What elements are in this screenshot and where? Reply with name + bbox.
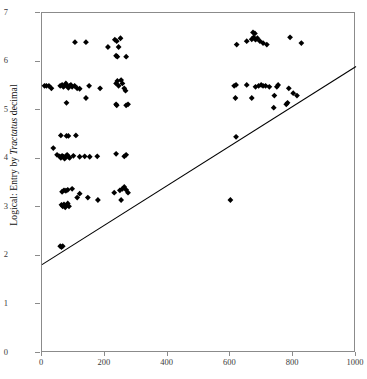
data-point bbox=[271, 93, 277, 99]
data-point bbox=[86, 83, 92, 89]
data-point bbox=[85, 195, 91, 201]
data-point bbox=[50, 145, 56, 151]
data-point bbox=[82, 153, 88, 159]
data-points-layer bbox=[42, 13, 356, 353]
x-tick-label: 1000 bbox=[335, 358, 367, 367]
data-point bbox=[249, 95, 255, 101]
x-tick-label: 800 bbox=[272, 358, 312, 367]
data-point bbox=[244, 82, 250, 88]
data-point bbox=[228, 197, 234, 203]
data-point bbox=[72, 39, 78, 45]
data-point bbox=[244, 38, 250, 44]
x-tick-label: 0 bbox=[21, 358, 61, 367]
y-tick-label: 1 bbox=[0, 299, 8, 308]
data-point bbox=[233, 95, 239, 101]
y-tick-mark bbox=[35, 303, 40, 304]
y-tick-mark bbox=[35, 255, 40, 256]
data-point bbox=[83, 39, 89, 45]
x-tick-label: 600 bbox=[209, 358, 249, 367]
x-tick-label: 400 bbox=[147, 358, 187, 367]
y-tick-mark bbox=[35, 206, 40, 207]
y-tick-label: 6 bbox=[0, 56, 8, 65]
plot-area bbox=[41, 12, 355, 352]
y-axis-title: Logical: Entry by Tractatus decimal bbox=[9, 55, 19, 255]
data-point bbox=[271, 105, 277, 111]
scatter-plot-figure: Logical: Entry by Tractatus decimal 0123… bbox=[0, 0, 367, 379]
data-point bbox=[113, 151, 119, 157]
y-axis-title-part-1: Logical: Entry by bbox=[9, 154, 19, 225]
y-tick-mark bbox=[35, 12, 40, 13]
y-axis-title-italic: Tractatus bbox=[9, 118, 19, 155]
x-tick-label: 200 bbox=[84, 358, 124, 367]
data-point bbox=[69, 186, 75, 192]
data-point bbox=[111, 190, 117, 196]
data-point bbox=[298, 40, 304, 46]
data-point bbox=[87, 154, 93, 160]
data-point bbox=[116, 44, 122, 50]
y-tick-mark bbox=[35, 158, 40, 159]
y-tick-label: 4 bbox=[0, 153, 8, 162]
data-point bbox=[286, 85, 292, 91]
data-point bbox=[118, 197, 124, 203]
data-point bbox=[234, 42, 240, 48]
data-point bbox=[123, 54, 129, 60]
data-point bbox=[233, 134, 239, 140]
y-axis-title-part-2: decimal bbox=[9, 84, 19, 117]
data-point bbox=[105, 44, 111, 50]
y-tick-mark bbox=[35, 352, 40, 353]
y-tick-label: 7 bbox=[0, 8, 8, 17]
data-point bbox=[95, 197, 101, 203]
data-point bbox=[83, 95, 89, 101]
data-point bbox=[287, 34, 293, 40]
data-point bbox=[97, 85, 103, 91]
y-tick-mark bbox=[35, 61, 40, 62]
y-tick-label: 3 bbox=[0, 202, 8, 211]
y-tick-label: 0 bbox=[0, 348, 8, 357]
y-tick-mark bbox=[35, 109, 40, 110]
data-point bbox=[77, 154, 83, 160]
y-tick-label: 2 bbox=[0, 250, 8, 259]
data-point bbox=[58, 133, 64, 139]
data-point bbox=[94, 153, 100, 159]
data-point bbox=[64, 100, 70, 106]
y-tick-label: 5 bbox=[0, 105, 8, 114]
data-point bbox=[73, 133, 79, 139]
